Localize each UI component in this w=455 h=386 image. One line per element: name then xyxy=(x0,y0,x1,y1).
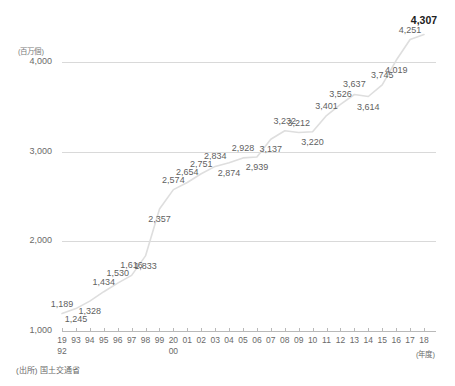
x-axis-tick-label: 18 xyxy=(414,335,434,345)
x-axis-line xyxy=(62,331,436,332)
x-axis-tickmark xyxy=(118,328,119,331)
x-axis-tickmark xyxy=(243,328,244,331)
x-axis-tickmark xyxy=(285,328,286,331)
x-axis-tickmark xyxy=(410,328,411,331)
data-label: 2,357 xyxy=(143,214,175,224)
x-axis-unit-label: (年度) xyxy=(416,348,435,359)
x-axis-tickmark xyxy=(382,328,383,331)
x-axis-tickmark xyxy=(159,328,160,331)
data-label: 2,939 xyxy=(241,162,273,172)
data-label: 2,654 xyxy=(171,167,203,177)
data-label: 4,251 xyxy=(394,25,426,35)
x-axis-tickmark xyxy=(62,328,63,331)
data-label: 1,434 xyxy=(88,277,120,287)
x-axis-tickmark xyxy=(271,328,272,331)
data-label: 1,328 xyxy=(74,306,106,316)
data-label: 3,614 xyxy=(352,102,384,112)
source-note: (出所) 国土交通省 xyxy=(16,364,80,375)
x-axis-tickmark xyxy=(313,328,314,331)
x-axis-tickmark xyxy=(340,328,341,331)
data-label: 1,833 xyxy=(130,261,162,271)
x-axis-tickmark xyxy=(215,328,216,331)
data-label: 3,637 xyxy=(338,79,370,89)
x-axis-tickmark xyxy=(187,328,188,331)
line-chart: (百万個) 4,0003,0002,0001,000 1,1891,2451,3… xyxy=(0,0,455,386)
x-axis-tick-label-sub: 92 xyxy=(52,346,72,356)
data-label-highlighted: 4,307 xyxy=(403,14,445,26)
x-axis-tickmark xyxy=(90,328,91,331)
x-axis-tickmark xyxy=(229,328,230,331)
data-label: 3,401 xyxy=(311,101,343,111)
x-axis-tickmark xyxy=(299,328,300,331)
data-label: 3,137 xyxy=(255,144,287,154)
x-axis-tickmark xyxy=(327,328,328,331)
x-axis-tickmark xyxy=(104,328,105,331)
x-axis-tickmark xyxy=(173,328,174,331)
x-axis-tickmark xyxy=(257,328,258,331)
data-label: 3,220 xyxy=(297,137,329,147)
x-axis-tickmark xyxy=(368,328,369,331)
data-label: 3,526 xyxy=(324,89,356,99)
x-axis-tickmark xyxy=(146,328,147,331)
x-axis-tickmark xyxy=(396,328,397,331)
x-axis-tickmark xyxy=(354,328,355,331)
data-label: 3,212 xyxy=(283,118,315,128)
x-axis-tickmark xyxy=(76,328,77,331)
x-axis-tickmark xyxy=(132,328,133,331)
x-axis-tick-label-sub: 00 xyxy=(163,346,183,356)
x-axis-tickmark xyxy=(201,328,202,331)
x-axis-tickmark xyxy=(424,328,425,331)
series-line xyxy=(0,0,455,386)
data-label: 4,019 xyxy=(380,65,412,75)
